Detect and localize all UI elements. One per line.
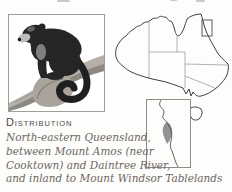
- distribution-text-line: between Mount Amos (near: [6, 145, 232, 159]
- distribution-heading: Distribution: [6, 116, 232, 128]
- cropped-text-remnant: [57, 0, 70, 2]
- cropped-text-remnant: [196, 0, 205, 2]
- distribution-text-line: North-eastern Queensland,: [6, 131, 232, 145]
- animal-photo-frame: [8, 14, 105, 112]
- distribution-section: Distribution North-eastern Queensland, b…: [6, 116, 232, 186]
- book-page: Distribution North-eastern Queensland, b…: [0, 0, 232, 192]
- distribution-text-line: and inland to Mount Windsor Tablelands: [6, 172, 232, 186]
- tree-kangaroo-illustration: [9, 15, 104, 111]
- cropped-text-remnant: [170, 0, 177, 1]
- state-borders: [149, 21, 227, 88]
- distribution-text-line: Cooktown) and Daintree River,: [6, 159, 232, 173]
